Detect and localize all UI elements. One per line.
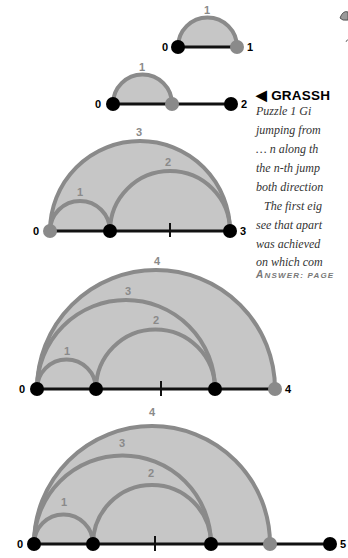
point-4-final (263, 537, 277, 551)
point-1-final (230, 40, 244, 54)
label-start: 0 (33, 225, 39, 237)
arc-label-3: 3 (136, 126, 142, 138)
text-line-5: both direction (256, 180, 323, 195)
point-1 (86, 537, 100, 551)
text-line-4: the n-th jump (256, 161, 320, 176)
point-0 (27, 537, 41, 551)
text-line-7: see that apart (256, 218, 322, 233)
label-end: 5 (340, 538, 346, 550)
label-start: 0 (17, 538, 23, 550)
point-1 (103, 224, 117, 238)
text-line-3: … n along th (256, 142, 318, 157)
arc-label-1: 1 (204, 4, 210, 16)
arc-label-1: 1 (64, 345, 70, 357)
label-start: 0 (19, 383, 25, 395)
arc-label-2: 2 (165, 156, 171, 168)
triangle-left-icon: ◀ (256, 88, 267, 103)
answer-rest: NSWER: PAGE (264, 271, 334, 280)
point-1 (89, 382, 103, 396)
point-0 (30, 382, 44, 396)
label-end: 4 (285, 383, 292, 395)
diagram-n1: 0 1 1 (162, 4, 253, 54)
label-end: 1 (247, 41, 253, 53)
diagram-n3: 0 3 1 2 3 (33, 126, 246, 238)
label-start: 0 (95, 98, 101, 110)
answer-reference: ANSWER: PAGE (256, 269, 334, 280)
arc-label-4: 4 (149, 406, 156, 418)
arc-label-1: 1 (77, 186, 83, 198)
point-0-final (43, 224, 57, 238)
arc-label-2: 2 (153, 314, 159, 326)
arc-label-4: 4 (154, 255, 161, 267)
text-line-8: was achieved (256, 237, 320, 252)
arc-label-3: 3 (119, 437, 125, 449)
text-line-9: on which com (256, 255, 323, 270)
text-line-1: Puzzle 1 Gi (256, 104, 311, 119)
point-3 (204, 537, 218, 551)
point-1-final (165, 97, 179, 111)
label-end: 3 (240, 225, 246, 237)
diagram-n5: 0 5 1 2 3 4 (17, 406, 346, 551)
arc-label-1: 1 (139, 61, 145, 73)
point-4-final (268, 382, 282, 396)
diagram-n2: 0 2 1 (95, 61, 247, 111)
point-2 (224, 97, 238, 111)
point-5 (323, 537, 337, 551)
section-heading: ◀ GRASSH (256, 87, 330, 103)
label-start: 0 (162, 41, 168, 53)
arc-label-1: 1 (61, 496, 67, 508)
point-0 (171, 40, 185, 54)
point-0 (106, 97, 120, 111)
text-line-2: jumping from (256, 123, 321, 138)
diagram-n4: 0 4 1 2 3 4 (19, 255, 292, 396)
decorative-grasshopper-fragment (340, 12, 348, 42)
arc-label-2: 2 (148, 467, 154, 479)
heading-text: GRASSH (271, 88, 330, 103)
point-3 (208, 382, 222, 396)
label-end: 2 (241, 98, 247, 110)
text-line-6: The first eig (264, 199, 322, 214)
arc-label-3: 3 (125, 285, 131, 297)
point-3 (223, 224, 237, 238)
